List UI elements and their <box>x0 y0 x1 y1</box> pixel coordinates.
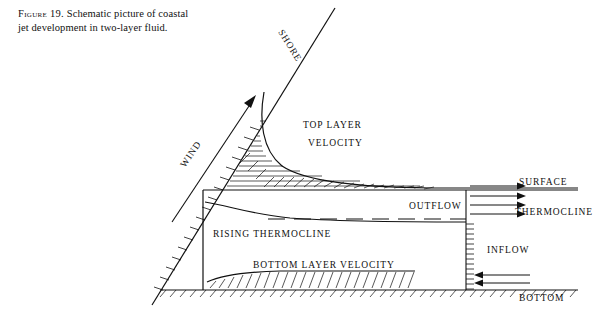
shore-label: SHORE <box>276 28 303 64</box>
inflow-label: INFLOW <box>487 245 529 255</box>
outflow-label: OUTFLOW <box>409 201 462 211</box>
bottom-layer-velocity-label: BOTTOM LAYER VELOCITY <box>253 260 395 270</box>
thermocline-label: THERMOCLINE <box>515 207 593 217</box>
figure-root: Figure 19. Schematic picture of coastal … <box>0 0 611 312</box>
coastal-jet-diagram: SHORE WIND <box>0 0 611 312</box>
inflow-arrows <box>474 272 530 287</box>
top-layer-velocity-label-line2: VELOCITY <box>308 138 363 148</box>
wind-label: WIND <box>178 139 203 169</box>
bottom-hatching <box>160 290 576 297</box>
bottom-label: BOTTOM <box>519 293 564 303</box>
shore-hatch-ticks <box>154 127 259 290</box>
rising-thermocline-label: RISING THERMOCLINE <box>213 229 331 239</box>
top-layer-velocity-label-line1: TOP LAYER <box>303 120 362 130</box>
bottom-layer-velocity-hatching <box>210 272 414 288</box>
surface-label: SURFACE <box>519 177 567 187</box>
top-layer-velocity-hatching <box>227 121 434 189</box>
